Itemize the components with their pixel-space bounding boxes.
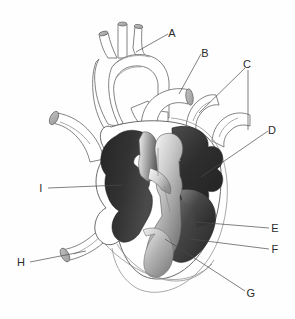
label-A: A <box>168 27 176 39</box>
label-C: C <box>243 58 251 70</box>
label-B: B <box>201 47 209 59</box>
left-common-carotid-artery <box>118 24 127 58</box>
label-H: H <box>17 256 25 268</box>
label-I: I <box>39 182 42 194</box>
label-E: E <box>271 222 279 234</box>
label-D: D <box>268 124 276 136</box>
label-F: F <box>271 243 278 255</box>
diagram-canvas: A B C D E F G H I <box>0 0 295 319</box>
heart-cross-section-diagram: A B C D E F G H I <box>0 0 295 319</box>
label-G: G <box>247 287 256 299</box>
left-common-carotid-cut-end <box>118 22 127 26</box>
